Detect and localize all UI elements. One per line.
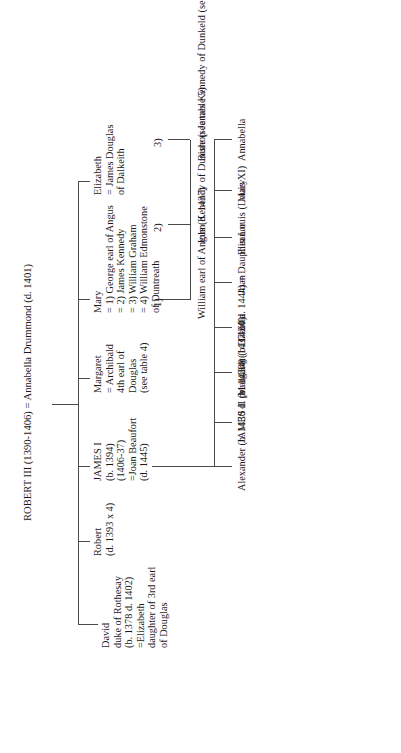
node-mary-line6: of Duntreath [150, 205, 162, 313]
drop-isabella [214, 327, 232, 328]
root-title: ROBERT III (1390-1406) = Annabella Drumm… [22, 264, 34, 521]
node-mary-line5: = 4) William Edmonstone [138, 205, 150, 313]
node-david-line2: duke of Rothesay [112, 567, 124, 648]
family-tree-canvas: ROBERT III (1390-1406) = Annabella Drumm… [0, 0, 401, 753]
drop-margaret-dauphin [214, 372, 232, 373]
generation2-bar [78, 182, 79, 625]
node-james-i: JAMES I (b. 1394) (1406-37) =Joan Beaufo… [92, 418, 150, 481]
james-i-children-stem [152, 466, 214, 467]
mary-child-bishop-line3: (see table 5) [196, 0, 207, 13]
marriage-marker-2: 2) [152, 223, 164, 232]
drop-alexander [214, 466, 232, 467]
child-alexander-line1: Alexander [236, 448, 247, 491]
drop-mary-child-1 [168, 299, 190, 300]
node-mary-line1: Mary [92, 205, 104, 313]
child-annabella: Annabella [236, 119, 248, 161]
node-david-line4: =Elizabeth [135, 567, 147, 648]
drop-joan [214, 282, 232, 283]
root-stem [52, 404, 78, 405]
node-margaret: Margaret = Archibald 4th earl of Douglas… [92, 343, 150, 393]
node-david: David duke of Rothesay (b. 1378 d. 1402)… [100, 567, 170, 648]
mary-child-bishop-james-kennedy: Bishop James Kennedy of Dunkeld (see tab… [196, 0, 208, 161]
node-james-i-line5: (d. 1445) [138, 418, 150, 481]
node-robert-line2: (d. 1393 x 4) [104, 503, 116, 556]
node-david-line6: of Douglas [158, 567, 170, 648]
child-joan-line1: Joan [236, 275, 247, 294]
mary-child-john-line1: John Kenendy [196, 185, 207, 244]
node-mary-line3: = 2) James Kennedy [115, 205, 127, 313]
node-elizabeth-line1: Elizabeth [92, 125, 104, 195]
node-david-line5: daughter of 3rd earl [146, 567, 158, 648]
node-mary-line4: = 3) William Graham [127, 205, 139, 313]
child-annabella-line1: Annabella [236, 119, 247, 161]
node-robert: Robert (d. 1393 x 4) [92, 503, 115, 556]
drop-margaret [78, 378, 90, 379]
node-margaret-line1: Margaret [92, 343, 104, 393]
child-james-ii-line1: JAMES II [236, 401, 247, 443]
marriage-marker-3: 3) [152, 138, 164, 147]
node-robert-line1: Robert [92, 503, 104, 556]
node-mary-line2: = 1) George earl of Angus [104, 205, 116, 313]
child-joan: Joan [236, 275, 248, 294]
node-james-i-line1: JAMES I [92, 418, 104, 481]
drop-mary-child-2 [168, 224, 190, 225]
drop-mary [78, 299, 90, 300]
drop-mary-child [214, 190, 232, 191]
chart-canvas-wrapper: ROBERT III (1390-1406) = Annabella Drumm… [0, 0, 401, 753]
mary-child-bishop-line1: Bishop James Kennedy [196, 64, 207, 161]
drop-annabella [214, 139, 232, 140]
root-title-line2: = Annabella Drummond (d. 1401) [22, 264, 33, 409]
node-james-i-line4: =Joan Beaufort [127, 418, 139, 481]
node-david-line3: (b. 1378 d. 1402) [123, 567, 135, 648]
drop-elizabeth [78, 181, 90, 182]
node-james-i-line2: (b. 1394) [104, 418, 116, 481]
node-margaret-line5: (see table 4) [138, 343, 150, 393]
node-elizabeth: Elizabeth = James Douglas of Dalkeith [92, 125, 127, 195]
child-isabella-line1: Isabella [236, 314, 247, 346]
child-isabella: Isabella [236, 314, 248, 346]
node-margaret-line4: Douglas [127, 343, 139, 393]
node-elizabeth-line3: of Dalkeith [115, 125, 127, 195]
mary-child-bishop-line2: of Dunkeld [196, 15, 207, 62]
drop-james-ii [214, 422, 232, 423]
drop-jamesi [78, 466, 90, 467]
child-eleanor-line1: Eleanor [236, 223, 247, 255]
node-margaret-line2: = Archibald [104, 343, 116, 393]
node-james-i-line3: (1406-37) [115, 418, 127, 481]
drop-mary-child-3 [168, 139, 190, 140]
drop-eleanor [214, 237, 232, 238]
child-mary: Mary [236, 180, 248, 202]
mary-children-bar [190, 140, 191, 300]
drop-david [78, 624, 98, 625]
child-mary-line1: Mary [236, 180, 247, 202]
mary-child-william-line1: William [196, 286, 207, 319]
node-margaret-line3: 4th earl of [115, 343, 127, 393]
node-elizabeth-line2: = James Douglas [104, 125, 116, 195]
marriage-marker-1: 1) [152, 298, 164, 307]
drop-robert [78, 541, 90, 542]
root-title-line1: ROBERT III (1390-1406) [22, 411, 33, 521]
node-david-line1: David [100, 567, 112, 648]
node-mary: Mary = 1) George earl of Angus = 2) Jame… [92, 205, 162, 313]
child-margaret-line1: Margaret [236, 358, 247, 396]
child-eleanor: Eleanor [236, 223, 248, 255]
